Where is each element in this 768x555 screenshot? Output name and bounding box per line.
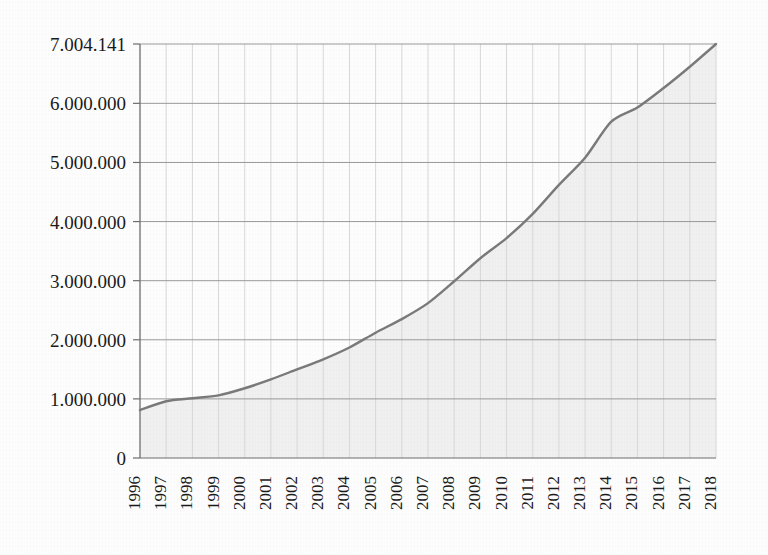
y-axis-ticks — [133, 44, 140, 458]
y-axis-tick-label: 1.000.000 — [50, 389, 126, 410]
x-axis-tick-label: 2001 — [256, 476, 275, 510]
y-axis-tick-label: 5.000.000 — [50, 152, 126, 173]
x-axis-tick-label: 2007 — [413, 476, 432, 511]
chart-container: 01.000.0002.000.0003.000.0004.000.0005.0… — [0, 0, 768, 555]
x-axis-tick-label: 2000 — [230, 476, 249, 510]
x-axis-tick-label: 2003 — [308, 476, 327, 510]
y-axis-tick-label: 3.000.000 — [50, 271, 126, 292]
y-axis-tick-label: 6.000.000 — [50, 93, 126, 114]
x-axis-tick-label: 2011 — [518, 476, 537, 509]
x-axis-tick-label: 2009 — [465, 476, 484, 510]
line-area-chart: 01.000.0002.000.0003.000.0004.000.0005.0… — [0, 0, 768, 555]
x-axis-tick-label: 2014 — [596, 476, 615, 511]
x-axis-tick-label: 2017 — [675, 476, 694, 511]
x-axis-tick-label: 2008 — [439, 476, 458, 510]
x-axis-tick-label: 2005 — [361, 476, 380, 510]
y-axis-tick-label: 2.000.000 — [50, 330, 126, 351]
x-axis-tick-label: 1997 — [151, 476, 170, 511]
x-axis-tick-label: 2018 — [701, 476, 720, 510]
x-axis-tick-label: 2013 — [570, 476, 589, 510]
x-axis-tick-label: 2015 — [622, 476, 641, 510]
x-axis-tick-label: 2010 — [492, 476, 511, 510]
x-axis-tick-label: 1999 — [204, 476, 223, 510]
y-axis-tick-label: 7.004.141 — [50, 34, 126, 55]
x-axis-tick-label: 2012 — [544, 476, 563, 510]
x-axis-tick-label: 2002 — [282, 476, 301, 510]
y-axis-tick-labels: 01.000.0002.000.0003.000.0004.000.0005.0… — [50, 34, 126, 469]
x-axis-tick-label: 1998 — [177, 476, 196, 510]
y-axis-tick-label: 0 — [117, 448, 127, 469]
x-axis-tick-label: 1996 — [125, 476, 144, 510]
x-axis-tick-label: 2016 — [649, 476, 668, 510]
x-axis-tick-label: 2006 — [387, 476, 406, 510]
y-axis-tick-label: 4.000.000 — [50, 212, 126, 233]
x-axis-tick-labels: 1996199719981999200020012002200320042005… — [125, 476, 720, 511]
x-axis-tick-label: 2004 — [334, 476, 353, 511]
